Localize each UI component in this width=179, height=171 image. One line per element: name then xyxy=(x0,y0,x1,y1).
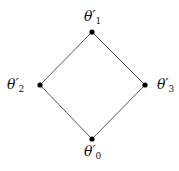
node-3 xyxy=(142,82,147,87)
edge-1-2 xyxy=(40,32,92,85)
node-2 xyxy=(37,82,42,87)
label-theta-0: θ′0 xyxy=(84,144,101,158)
edge-3-0 xyxy=(92,85,145,139)
node-0 xyxy=(89,136,94,141)
node-1 xyxy=(89,29,94,34)
edge-1-3 xyxy=(92,32,145,85)
label-theta-2: θ′2 xyxy=(7,77,24,91)
label-theta-1: θ′1 xyxy=(84,9,101,23)
edge-2-0 xyxy=(40,85,92,139)
hasse-diagram: θ′1 θ′2 θ′3 θ′0 xyxy=(0,0,179,171)
label-theta-3: θ′3 xyxy=(157,77,174,91)
